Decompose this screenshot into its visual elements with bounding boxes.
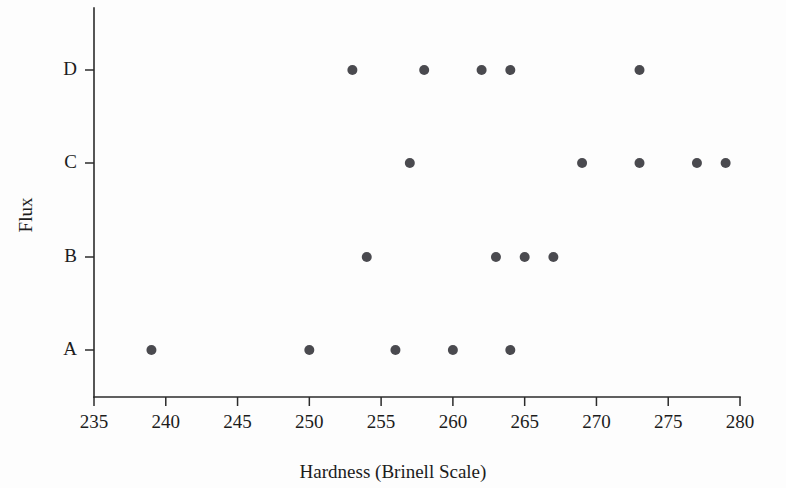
x-tick-label: 275 — [654, 411, 683, 432]
data-point — [477, 65, 487, 75]
data-point — [721, 158, 731, 168]
data-point — [635, 158, 645, 168]
data-point — [505, 345, 515, 355]
y-tick-label: B — [64, 245, 77, 266]
data-point — [390, 345, 400, 355]
data-point — [635, 65, 645, 75]
data-point — [419, 65, 429, 75]
x-tick-label: 240 — [152, 411, 181, 432]
data-point — [448, 345, 458, 355]
data-point — [304, 345, 314, 355]
data-point — [577, 158, 587, 168]
data-point — [548, 252, 558, 262]
x-tick-label: 255 — [367, 411, 396, 432]
data-points-group — [146, 65, 730, 355]
x-axis-title: Hardness (Brinell Scale) — [300, 461, 487, 483]
data-point — [405, 158, 415, 168]
x-tick-label: 280 — [726, 411, 755, 432]
data-point — [362, 252, 372, 262]
data-point — [146, 345, 156, 355]
x-tick-label: 260 — [439, 411, 468, 432]
data-point — [347, 65, 357, 75]
y-tick-label: A — [63, 338, 77, 359]
x-tick-label: 250 — [295, 411, 324, 432]
y-tick-label: C — [64, 151, 77, 172]
scatter-plot-figure: 235240245250255260265270275280 ABCD Hard… — [0, 0, 786, 488]
y-axis-ticks: ABCD — [63, 58, 94, 359]
data-point — [491, 252, 501, 262]
x-tick-label: 265 — [510, 411, 539, 432]
data-point — [692, 158, 702, 168]
axes-group — [94, 8, 740, 397]
y-tick-label: D — [63, 58, 77, 79]
x-tick-label: 270 — [582, 411, 611, 432]
x-tick-label: 235 — [80, 411, 109, 432]
x-axis-ticks: 235240245250255260265270275280 — [80, 397, 755, 432]
plot-canvas: 235240245250255260265270275280 ABCD Hard… — [0, 0, 786, 488]
y-axis-title: Flux — [15, 197, 36, 232]
x-tick-label: 245 — [223, 411, 252, 432]
data-point — [505, 65, 515, 75]
data-point — [520, 252, 530, 262]
